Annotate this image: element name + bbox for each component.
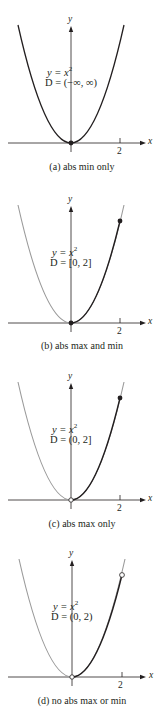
min-point-filled — [69, 141, 74, 146]
graph-b — [0, 180, 164, 360]
open-point-left — [70, 675, 74, 679]
tick-label: 2 — [118, 680, 123, 690]
y-axis-arrow-icon — [69, 26, 73, 32]
y-axis-arrow-icon — [70, 560, 74, 566]
max-point-filled — [118, 219, 123, 224]
x-axis-label: x — [148, 316, 152, 326]
x-axis-arrow-icon — [140, 141, 146, 145]
graph-a — [0, 0, 164, 180]
tick-label: 2 — [117, 146, 122, 156]
open-point — [69, 498, 73, 502]
caption: (a) abs min only — [0, 161, 164, 172]
exponent: 2 — [69, 65, 73, 73]
equation-text: y = x — [47, 67, 69, 78]
exponent: 2 — [75, 599, 79, 607]
y-axis-label: y — [69, 548, 73, 558]
domain-label: D = [0, 2] — [50, 257, 92, 269]
x-axis-arrow-icon — [140, 675, 146, 679]
min-point-filled — [69, 321, 74, 326]
x-axis-label: x — [148, 136, 152, 146]
tick-label: 2 — [117, 326, 122, 336]
y-axis-arrow-icon — [69, 206, 73, 212]
panel-c: y x 2 y = x2 D = (0, 2] (c) abs max only — [0, 357, 164, 537]
equation-text: y = x — [52, 247, 74, 258]
open-point-right — [120, 573, 125, 578]
graph-c — [0, 357, 164, 537]
tick-label: 2 — [117, 503, 122, 513]
domain-label: D = (−∞, ∞) — [45, 77, 97, 89]
panel-d: y x 2 y = x2 D = (0, 2) (d) no abs max o… — [0, 536, 164, 716]
exponent: 2 — [74, 245, 78, 253]
x-axis-arrow-icon — [140, 498, 146, 502]
parabola-domain-segment — [71, 398, 120, 500]
parabola-domain-segment — [72, 575, 122, 677]
panel-b: y x 2 y = x2 D = [0, 2] (b) abs max and … — [0, 180, 164, 360]
caption: (d) no abs max or min — [0, 695, 164, 706]
panel-a: y x 2 y = x2 D = (−∞, ∞) (a) abs min onl… — [0, 0, 164, 180]
x-axis-arrow-icon — [140, 321, 146, 325]
y-axis-label: y — [68, 14, 72, 24]
parabola-domain-segment — [71, 221, 120, 323]
max-point-filled — [118, 396, 123, 401]
exponent: 2 — [74, 422, 78, 430]
caption: (c) abs max only — [0, 518, 164, 529]
equation-text: y = x — [53, 601, 75, 612]
y-axis-arrow-icon — [69, 383, 73, 389]
domain-label: D = (0, 2] — [50, 434, 92, 446]
x-axis-label: x — [149, 670, 153, 680]
x-axis-label: x — [148, 493, 152, 503]
equation-text: y = x — [52, 424, 74, 435]
y-axis-label: y — [68, 194, 72, 204]
domain-label: D = (0, 2) — [51, 611, 93, 623]
y-axis-label: y — [68, 371, 72, 381]
caption: (b) abs max and min — [0, 340, 164, 351]
